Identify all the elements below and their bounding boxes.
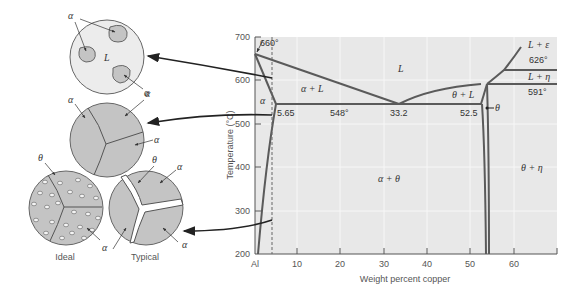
plot-area: L α + L α θ + L θ α + θ θ + η L + ε L + … [225, 32, 557, 284]
y-axis-title: Temperature (°C) [225, 110, 235, 179]
y-tick-300: 300 [235, 206, 250, 216]
region-alpha: α [260, 95, 266, 106]
micro-top-alpha-1: α [68, 10, 74, 21]
region-theta-eta: θ + η [521, 162, 543, 173]
micro-mid-alpha-3: α [154, 134, 160, 145]
region-L-eta: L + η [527, 71, 550, 82]
x-tick-50: 50 [465, 259, 475, 269]
y-tick-700: 700 [235, 32, 250, 42]
x-tick-10: 10 [292, 259, 302, 269]
x-axis-title: Weight percent copper [360, 274, 450, 284]
y-tick-600: 600 [235, 75, 250, 85]
arrow-to-alpha-grains [148, 115, 272, 123]
arrow-to-liquid-alpha [148, 56, 272, 78]
microstructure-liquid-alpha: L α α [68, 10, 150, 98]
phase-diagram-figure: L α + L α θ + L θ α + θ θ + η L + ε L + … [0, 0, 587, 291]
label-548: 548° [330, 108, 349, 118]
label-525: 52.5 [460, 108, 478, 118]
region-L-eps: L + ε [527, 39, 549, 50]
label-626: 626° [529, 55, 548, 65]
label-332: 33.2 [390, 108, 408, 118]
y-tick-200: 200 [235, 249, 250, 259]
micro-ideal-theta: θ [38, 152, 43, 163]
x-tick-al: Al [251, 259, 259, 269]
x-tick-60: 60 [509, 259, 519, 269]
micro-ideal-alpha: α [102, 242, 108, 253]
caption-typical: Typical [131, 252, 159, 262]
label-565: 5.65 [277, 108, 295, 118]
x-tick-40: 40 [422, 259, 432, 269]
region-alpha-theta: α + θ [378, 173, 400, 184]
micro-typical-theta: θ [152, 154, 157, 165]
micro-mid-alpha-2: α [145, 88, 151, 99]
y-tick-500: 500 [235, 119, 250, 129]
x-tick-20: 20 [335, 259, 345, 269]
label-660: 660° [260, 38, 279, 48]
region-theta: θ [495, 102, 500, 113]
micro-typical-alpha-1: α [177, 161, 183, 172]
microstructure-alpha-grains: α α α [68, 88, 160, 177]
region-theta-L: θ + L [452, 89, 475, 100]
caption-ideal: Ideal [55, 252, 75, 262]
y-tick-400: 400 [235, 162, 250, 172]
region-L: L [397, 63, 404, 74]
x-tick-30: 30 [379, 259, 389, 269]
region-alpha-L: α + L [301, 83, 324, 94]
micro-typical-alpha-2: α [182, 239, 188, 250]
micro-mid-alpha-1: α [68, 94, 74, 105]
label-591: 591° [528, 87, 547, 97]
micro-top-liquid: L [103, 52, 110, 63]
